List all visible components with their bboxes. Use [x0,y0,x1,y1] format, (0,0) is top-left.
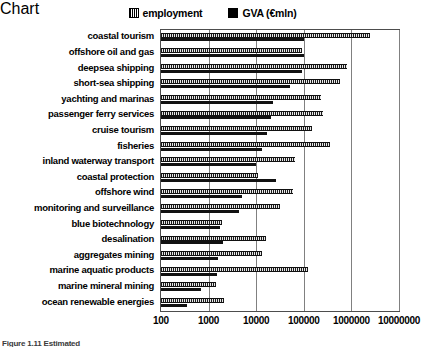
y-axis-label-desalination: desalination [102,234,154,244]
bar-employment [161,157,295,162]
bar-row [161,186,399,202]
hatched-square-icon [129,8,139,18]
bar-rows [161,30,399,311]
y-axis-label-passenger-ferry-services: passenger ferry services [48,109,154,119]
y-axis-label-short-sea-shipping: short-sea shipping [74,78,154,88]
y-axis-label-inland-waterway-transport: inland waterway transport [43,156,154,166]
legend-label-gva: GVA (€mln) [242,7,296,19]
bar-employment [161,95,321,100]
bar-row [161,264,399,280]
bar-gva [161,288,201,291]
bar-gva [161,195,242,198]
y-axis-label-monitoring-and-surveillance: monitoring and surveillance [34,203,154,213]
bar-row [161,92,399,108]
bar-employment [161,267,308,272]
bar-employment [161,173,258,178]
bar-row [161,139,399,155]
bar-employment [161,33,370,38]
bar-gva [161,132,267,135]
bar-gva [161,304,187,307]
filled-square-icon [228,8,238,18]
bar-gva [161,148,262,151]
x-tick-label-10000000: 10000000 [378,315,420,326]
bar-gva [161,226,220,229]
bar-employment [161,220,222,225]
legend-label-employment: employment [143,7,203,19]
bar-row [161,202,399,218]
bar-employment [161,204,280,209]
bar-gva [161,70,302,73]
legend-item-employment: employment [129,7,203,19]
x-axis-tick-labels: 100100010000100000100000010000000 [0,315,425,331]
bar-employment [161,282,216,287]
x-tick-label-100: 100 [153,315,169,326]
bar-row [161,124,399,140]
bar-row [161,77,399,93]
gridline-10000000 [399,30,400,311]
bar-row [161,217,399,233]
bar-gva [161,257,218,260]
y-axis-label-ocean-renewable-energies: ocean renewable energies [42,297,154,307]
y-axis-label-aggregates-mining: aggregates mining [74,250,154,260]
bar-gva [161,116,271,119]
chart-legend: employment GVA (€mln) [0,4,425,22]
legend-item-gva: GVA (€mln) [228,7,296,19]
x-tick-label-1000000: 1000000 [333,315,370,326]
bar-row [161,171,399,187]
y-axis-label-deepsea-shipping: deepsea shipping [78,63,154,73]
y-axis-label-cruise-tourism: cruise tourism [92,125,154,135]
bar-gva [161,241,223,244]
bar-gva [161,101,273,104]
y-axis-label-yachting-and-marinas: yachting and marinas [61,94,154,104]
bar-row [161,108,399,124]
bar-row [161,61,399,77]
bar-gva [161,38,304,41]
bar-row [161,46,399,62]
y-axis-label-blue-biotechnology: blue biotechnology [71,219,154,229]
y-axis-label-offshore-wind: offshore wind [95,187,154,197]
bar-gva [161,273,217,276]
bar-employment [161,126,312,131]
y-axis-label-coastal-protection: coastal protection [77,172,154,182]
figure-caption: Figure 1.11 Estimated [2,339,425,347]
x-tick-label-100000: 100000 [288,315,320,326]
x-tick-label-10000: 10000 [243,315,269,326]
bar-gva [161,163,256,166]
bar-row [161,280,399,296]
y-axis-category-labels: coastal tourismoffshore oil and gasdeeps… [0,29,158,312]
bar-employment [161,236,266,241]
bar-employment [161,64,347,69]
y-axis-label-marine-mineral-mining: marine mineral mining [58,281,154,291]
x-tick-label-1000: 1000 [198,315,219,326]
y-axis-label-marine-aquatic-products: marine aquatic products [49,265,154,275]
bar-gva [161,85,290,88]
bar-gva [161,54,304,57]
y-axis-label-fisheries: fisheries [117,141,154,151]
y-axis-label-coastal-tourism: coastal tourism [88,31,154,41]
bar-employment [161,79,340,84]
bar-employment [161,251,262,256]
bar-employment [161,48,302,53]
bar-row [161,30,399,46]
bar-employment [161,142,330,147]
bar-row [161,249,399,265]
bar-employment [161,298,224,303]
y-axis-label-offshore-oil-and-gas: offshore oil and gas [69,47,154,57]
bar-gva [161,179,276,182]
bar-row [161,155,399,171]
bar-row [161,233,399,249]
bar-row [161,295,399,311]
plot-area [160,29,400,312]
bar-gva [161,210,239,213]
bar-employment [161,189,293,194]
bar-employment [161,111,323,116]
